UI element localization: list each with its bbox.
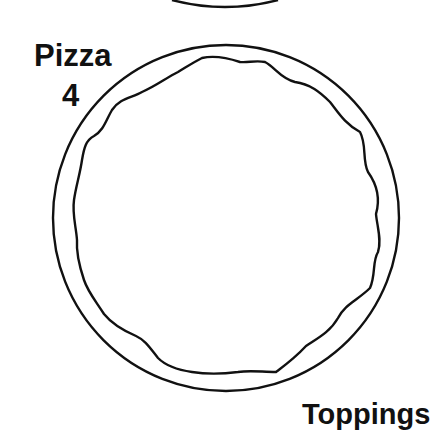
previous-pizza-edge [172, 0, 278, 7]
toppings-label: Toppings [302, 400, 430, 429]
pizza-number: 4 [62, 80, 79, 111]
pizza-title: Pizza [34, 40, 112, 71]
pizza-crust-outline [53, 45, 399, 391]
pizza-sauce-outline [73, 57, 379, 374]
